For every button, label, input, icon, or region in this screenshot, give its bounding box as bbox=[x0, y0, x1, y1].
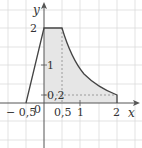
x-axis-label: x bbox=[128, 106, 135, 120]
x-tick-minus-0-5: − 0,5 bbox=[6, 106, 36, 119]
x-tick-1: 1 bbox=[77, 106, 84, 119]
x-tick-2: 2 bbox=[113, 106, 120, 119]
x-tick-0-5: 0,5 bbox=[54, 106, 72, 119]
y-axis-label: y bbox=[32, 3, 40, 17]
y-tick-0-2: 0,2 bbox=[47, 89, 65, 102]
graph: y x 2 1 0,2 − 0,5 0 0,5 1 2 bbox=[0, 0, 142, 148]
y-tick-2: 2 bbox=[30, 22, 37, 35]
origin-label: 0 bbox=[34, 103, 41, 116]
y-tick-1: 1 bbox=[47, 59, 54, 72]
